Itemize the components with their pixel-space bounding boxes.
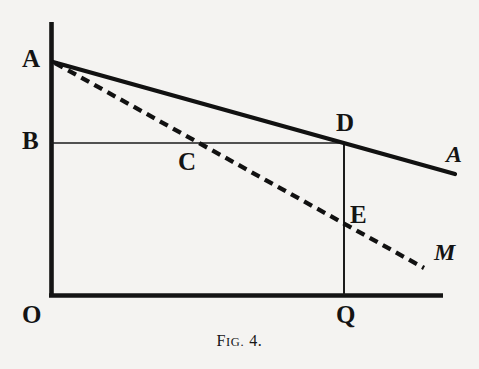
label-point-b: B	[22, 128, 39, 153]
figure-container: A B C D E Q O A M FIG.4.	[0, 0, 479, 369]
label-point-a: A	[22, 46, 40, 71]
curve-average-aa	[53, 62, 455, 174]
caption-number: 4.	[249, 332, 262, 349]
label-point-e: E	[350, 202, 367, 227]
curve-marginal-am	[55, 63, 424, 268]
label-curve-am-end: M	[434, 240, 455, 264]
caption-small-caps: IG.	[226, 335, 244, 349]
caption-lead-letter: F	[217, 332, 227, 349]
label-point-d: D	[336, 110, 354, 135]
figure-caption: FIG.4.	[0, 332, 479, 350]
figure-diagram	[0, 0, 479, 369]
label-point-c: C	[178, 149, 196, 174]
label-point-o: O	[22, 302, 41, 327]
label-point-q: Q	[336, 302, 355, 327]
label-curve-aa-end: A	[446, 142, 462, 166]
